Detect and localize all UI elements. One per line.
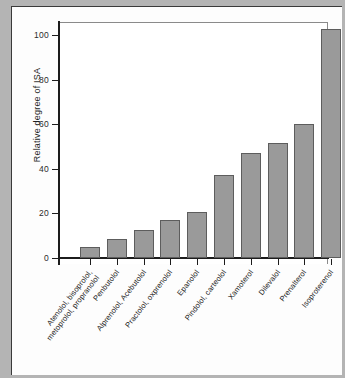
bar [268, 143, 288, 258]
y-axis-tick [52, 258, 58, 259]
x-axis-category-label: Epanolol [175, 268, 201, 297]
x-axis-category-label: Pindolol, carteolol [183, 268, 228, 322]
y-axis-tick [52, 80, 58, 81]
bar [80, 247, 100, 258]
x-axis-category-label: Xamoterol [226, 268, 255, 302]
y-axis-tick-label: 100 [15, 30, 49, 40]
y-axis-tick-labels: 020406080100 [11, 6, 49, 378]
y-axis-tick [52, 124, 58, 125]
bar [134, 230, 154, 258]
x-axis-category-label: Practolol, oxprenolol [124, 268, 175, 329]
bar [294, 124, 314, 258]
x-axis-tick [251, 259, 252, 265]
x-axis-tick [197, 259, 198, 265]
x-axis-tick [304, 259, 305, 265]
bar-chart-figure: 020406080100 Relative degree of ISA Aten… [11, 6, 345, 378]
x-axis-tick [331, 259, 332, 265]
x-axis-tick [90, 259, 91, 265]
y-axis-tick [52, 213, 58, 214]
y-axis-tick [52, 35, 58, 36]
bar [321, 29, 341, 258]
y-axis-tick-label: 0 [15, 253, 49, 263]
x-axis-category-label: Penbutolol [91, 268, 121, 303]
x-axis-category-label: Isoproterenol [300, 268, 335, 309]
x-axis-tick [144, 259, 145, 265]
x-axis-category-label: Alprenolol, Acebutolol [94, 268, 147, 333]
bar [214, 175, 234, 258]
x-axis-tick [117, 259, 118, 265]
x-axis-category-label: Prenalterol [278, 268, 308, 303]
x-axis-category-label: Dilevalol [256, 268, 281, 297]
bar [187, 212, 207, 258]
y-axis-tick-label: 20 [15, 208, 49, 218]
bar [241, 153, 261, 258]
x-axis-tick [278, 259, 279, 265]
x-axis-tick [170, 259, 171, 265]
y-axis-tick [52, 169, 58, 170]
x-axis-tick [224, 259, 225, 265]
bar [107, 239, 127, 258]
bar [160, 220, 180, 258]
y-axis-title: Relative degree of ISA [32, 40, 42, 190]
bars-layer [60, 22, 328, 258]
